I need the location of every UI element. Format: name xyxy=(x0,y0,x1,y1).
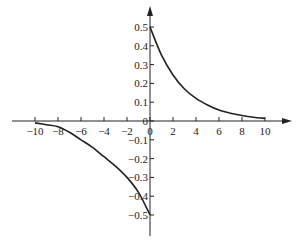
x-tick-label: 6 xyxy=(216,125,222,137)
x-tick-label: 4 xyxy=(193,125,199,137)
x-tick-label: 0 xyxy=(147,125,153,137)
chart: −10−8−6−4−202468100.50.40.30.20.10−0.1−0… xyxy=(0,0,301,246)
y-tick-label: −0.2 xyxy=(128,153,148,165)
x-tick-label: −10 xyxy=(26,125,44,137)
y-tick-label: 0 xyxy=(143,115,149,127)
x-axis-arrow-icon xyxy=(282,118,292,124)
x-tick-label: 10 xyxy=(260,125,272,137)
x-tick-label: 2 xyxy=(170,125,176,137)
y-tick-label: −0.1 xyxy=(128,134,148,146)
curve-right xyxy=(150,27,265,118)
y-tick-label: 0.5 xyxy=(134,21,148,33)
y-tick-label: −0.5 xyxy=(128,209,148,221)
y-tick-label: 0.1 xyxy=(134,96,148,108)
y-tick-label: 0.2 xyxy=(134,77,148,89)
x-tick-label: −6 xyxy=(75,125,87,137)
y-axis-arrow-icon xyxy=(147,6,153,16)
x-tick-label: 8 xyxy=(239,125,245,137)
y-tick-label: 0.4 xyxy=(134,40,148,52)
x-tick-label: −4 xyxy=(98,125,110,137)
y-tick-label: 0.3 xyxy=(134,59,148,71)
